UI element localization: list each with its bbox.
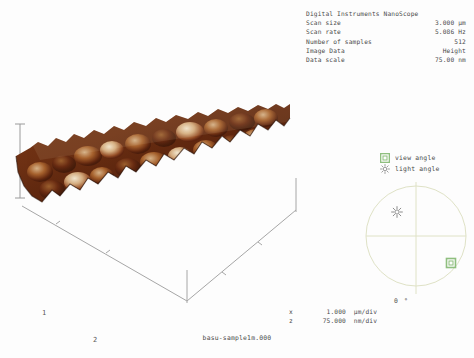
filename-caption: basu-sample1m.000 (0, 334, 474, 342)
scale-legend-row-z: z 75.000 nm/div (289, 316, 377, 325)
view-angle-label: view angle (395, 154, 435, 162)
instrument-title: Digital Instruments NanoScope (306, 9, 470, 18)
scale-axis-label: x (289, 307, 298, 316)
scale-axis-label: z (289, 316, 298, 325)
compass-sun-marker[interactable] (392, 207, 403, 218)
parameter-row-scan-size: Scan size 3.000 µm (306, 18, 470, 27)
parameter-label: Data scale (306, 55, 345, 64)
parameter-label: Scan rate (306, 27, 341, 36)
scale-value: 1.000 (302, 307, 346, 316)
parameter-row-data-scale: Data scale 75.00 nm (306, 55, 470, 64)
parameter-value: Height (443, 46, 470, 55)
x-axis-tick-label-1: 1 (42, 309, 46, 317)
view-angle-legend[interactable]: view angle (380, 153, 435, 163)
scan-parameter-block: Digital Instruments NanoScope Scan size … (306, 9, 470, 64)
parameter-label: Scan size (306, 18, 341, 27)
parameter-label: Number of samples (306, 37, 372, 46)
parameter-label: Image Data (306, 46, 345, 55)
parameter-row-number-of-samples: Number of samples 512 (306, 37, 470, 46)
angle-control-panel[interactable]: view angle light angle (358, 152, 474, 312)
angle-compass-dial[interactable] (358, 178, 474, 298)
parameter-value: 512 (454, 37, 470, 46)
surface-plot-canvas (0, 60, 300, 320)
compass-view-marker[interactable] (447, 259, 456, 268)
compass-degree-label: 0 ° (394, 297, 409, 305)
parameter-value: 75.00 nm (435, 55, 470, 64)
parameter-value: 5.086 Hz (435, 27, 470, 36)
parameter-row-scan-rate: Scan rate 5.086 Hz (306, 27, 470, 36)
parameter-row-image-data: Image Data Height (306, 46, 470, 55)
plot-axes-frame (22, 178, 296, 303)
scale-value: 75.000 (302, 316, 346, 325)
green-square-icon (380, 153, 390, 163)
afm-3d-surface-plot[interactable]: 1 2 µm (0, 60, 300, 320)
height-surface-mesh (0, 80, 300, 290)
light-angle-legend[interactable]: light angle (380, 164, 440, 174)
afm-nanoscope-viewer: Digital Instruments NanoScope Scan size … (0, 0, 474, 358)
parameter-value: 3.000 µm (435, 18, 470, 27)
light-angle-label: light angle (395, 165, 440, 173)
sun-icon (380, 164, 390, 174)
scale-unit: nm/div (350, 317, 377, 324)
